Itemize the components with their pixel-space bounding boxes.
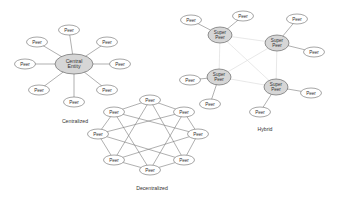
decentralized-peer-node-label: Peer — [109, 110, 119, 115]
super-peer-node: SuperPeer — [265, 35, 289, 51]
super-peer-node-label: Peer — [272, 43, 282, 48]
hybrid-peer-node-label: Peer — [292, 17, 302, 22]
decentralized-peer-node: Peer — [140, 95, 161, 105]
decentralized-peer-node: Peer — [140, 165, 161, 175]
super-peer-node: SuperPeer — [208, 27, 232, 43]
centralized-peer-node: Peer — [97, 85, 118, 95]
decentralized-peer-node-label: Peer — [193, 132, 203, 137]
decentralized-peer-node: Peer — [104, 107, 125, 117]
centralized-peer-node-label: Peer — [20, 62, 30, 67]
super-peer-node-label: Peer — [215, 35, 225, 40]
decentralized-peer-node: Peer — [88, 129, 109, 139]
decentralized-peer-node-label: Peer — [93, 132, 103, 137]
hybrid-peer-node-label: Peer — [306, 91, 316, 96]
decentralized-peer-node-label: Peer — [145, 168, 155, 173]
decentralized-peer-node: Peer — [188, 129, 209, 139]
super-peer-node-label: Peer — [214, 77, 224, 82]
decentralized-caption: Decentralized — [136, 185, 168, 191]
hybrid-peer-node: Peer — [181, 15, 202, 25]
hybrid-peer-node-label: Peer — [238, 14, 248, 19]
hybrid-peer-node-label: Peer — [186, 18, 196, 23]
decentralized-peer-node-label: Peer — [179, 158, 189, 163]
centralized-peer-node-label: Peer — [115, 62, 125, 67]
hybrid-peer-node-label: Peer — [205, 102, 215, 107]
decentralized-peer-node: Peer — [174, 155, 195, 165]
centralized-peer-node: Peer — [59, 25, 80, 35]
centralized-peer-node: Peer — [110, 59, 131, 69]
hybrid-caption: Hybrid — [258, 126, 273, 132]
hybrid-peer-node: Peer — [180, 75, 201, 85]
decentralized-peer-node-label: Peer — [179, 110, 189, 115]
hybrid-peer-node: Peer — [250, 107, 271, 117]
hybrid-peer-node-label: Peer — [309, 50, 319, 55]
centralized-peer-node: Peer — [97, 37, 118, 47]
centralized-peer-node-label: Peer — [69, 100, 79, 105]
super-peer-node: SuperPeer — [264, 79, 288, 95]
super-peer-node-label: Peer — [271, 87, 281, 92]
hybrid-peer-node-label: Peer — [185, 78, 195, 83]
centralized-peer-node-label: Peer — [34, 88, 44, 93]
hybrid-peer-node: Peer — [287, 14, 308, 24]
decentralized-peer-node: Peer — [104, 155, 125, 165]
centralized-peer-node-label: Peer — [32, 40, 42, 45]
hybrid-peer-node: Peer — [233, 11, 254, 21]
hybrid-peer-node: Peer — [301, 88, 322, 98]
nodes-layer: CentralEntityPeerPeerPeerPeerPeerPeerPee… — [15, 11, 325, 175]
network-topologies-diagram: CentralEntityPeerPeerPeerPeerPeerPeerPee… — [0, 0, 337, 201]
centralized-peer-node-label: Peer — [102, 88, 112, 93]
hybrid-peer-node: Peer — [200, 99, 221, 109]
centralized-peer-node-label: Peer — [102, 40, 112, 45]
decentralized-peer-node-label: Peer — [145, 98, 155, 103]
decentralized-peer-node-label: Peer — [109, 158, 119, 163]
hybrid-peer-node-label: Peer — [255, 110, 265, 115]
centralized-peer-node: Peer — [27, 37, 48, 47]
central-entity-node-label: Entity — [68, 63, 81, 69]
super-peer-node: SuperPeer — [207, 69, 231, 85]
centralized-peer-node: Peer — [29, 85, 50, 95]
central-entity-node: CentralEntity — [55, 54, 93, 74]
centralized-peer-node: Peer — [15, 59, 36, 69]
decentralized-peer-node: Peer — [174, 107, 195, 117]
centralized-caption: Centralized — [62, 118, 88, 124]
centralized-peer-node-label: Peer — [64, 28, 74, 33]
centralized-peer-node: Peer — [64, 97, 85, 107]
hybrid-peer-node: Peer — [304, 47, 325, 57]
